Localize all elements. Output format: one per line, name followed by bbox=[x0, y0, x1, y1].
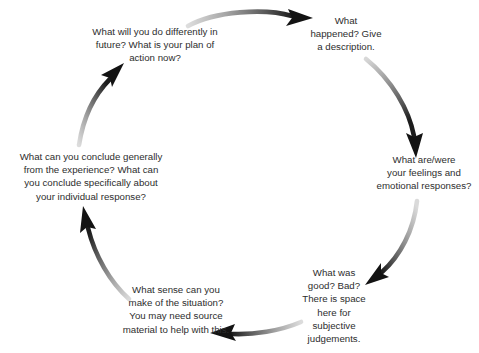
stage-text-feelings: What are/were your feelings and emotiona… bbox=[368, 153, 479, 193]
stage-text-analysis: What sense can you make of the situation… bbox=[96, 283, 256, 336]
stage-text-action-plan: What will you do differently in future? … bbox=[66, 25, 244, 65]
stage-text-evaluation: What was good? Bad? There is space here … bbox=[292, 266, 376, 345]
reflective-cycle-diagram: What happened? Give a description. What … bbox=[0, 0, 479, 353]
arrow-action-to-description bbox=[188, 9, 313, 26]
stage-text-description: What happened? Give a description. bbox=[298, 14, 394, 54]
arrow-description-to-feelings bbox=[366, 59, 423, 158]
stage-text-conclusion: What can you conclude generally from the… bbox=[2, 150, 180, 203]
arrow-conclusion-to-action bbox=[79, 63, 124, 145]
